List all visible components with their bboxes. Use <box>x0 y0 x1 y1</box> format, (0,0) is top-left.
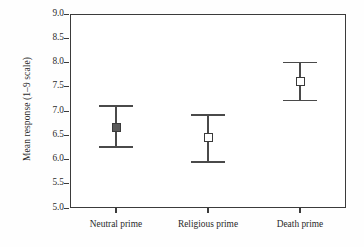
y-tick-label: 8.5 <box>40 32 64 42</box>
y-tick-mark <box>64 135 69 136</box>
error-bar-cap-upper <box>99 105 133 107</box>
y-tick-label: 5.5 <box>40 177 64 187</box>
error-bar-cap-lower <box>283 100 317 102</box>
figure-canvas: Mean response (1–9 scale) 9.08.58.07.57.… <box>0 0 364 247</box>
y-tick-label: 6.5 <box>40 129 64 139</box>
error-bar-cap-lower <box>99 146 133 148</box>
error-bar-cap-upper <box>283 62 317 64</box>
y-tick-mark <box>64 62 69 63</box>
y-tick-label: 6.0 <box>40 153 64 163</box>
y-tick-mark <box>64 183 69 184</box>
y-tick-mark <box>64 111 69 112</box>
y-tick-label: 5.0 <box>40 202 64 212</box>
error-bar-cap-upper <box>191 114 225 116</box>
y-axis-label: Mean response (1–9 scale) <box>22 24 32 194</box>
y-tick-mark <box>64 86 69 87</box>
y-tick-mark <box>64 159 69 160</box>
y-tick-mark <box>64 14 69 15</box>
y-tick-mark <box>64 38 69 39</box>
error-bar-cap-lower <box>191 161 225 163</box>
y-tick-mark <box>64 208 69 209</box>
x-tick-mark <box>115 208 116 213</box>
y-tick-label: 7.5 <box>40 80 64 90</box>
x-tick-mark <box>299 208 300 213</box>
plot-area <box>70 14 346 208</box>
data-point-marker <box>204 133 213 142</box>
y-tick-label: 7.0 <box>40 105 64 115</box>
y-tick-label: 9.0 <box>40 8 64 18</box>
x-tick-mark <box>207 208 208 213</box>
y-tick-label: 8.0 <box>40 56 64 66</box>
data-point-marker <box>112 123 121 132</box>
x-tick-label: Death prime <box>245 219 355 229</box>
data-point-marker <box>296 77 305 86</box>
